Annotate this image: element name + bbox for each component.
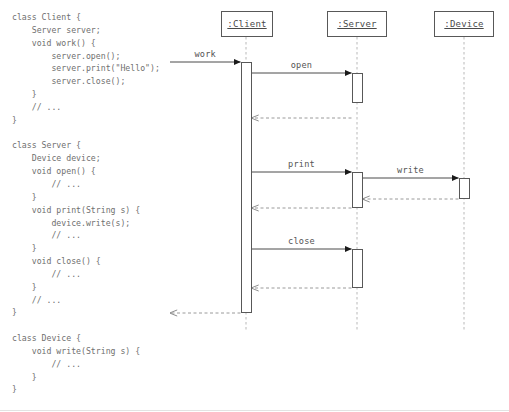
message-label: write — [397, 165, 424, 175]
diagram-svg — [0, 0, 509, 412]
message-label: close — [288, 236, 315, 246]
activation-bar[interactable] — [241, 62, 252, 313]
lifeline-head-device[interactable]: :Device — [434, 11, 494, 37]
lifeline-label: :Server — [337, 19, 376, 29]
lifeline-label: :Device — [444, 19, 483, 29]
activation-bar[interactable] — [352, 73, 363, 103]
activation-bar[interactable] — [352, 249, 363, 288]
bottom-border-rule — [0, 410, 509, 411]
message-label: work — [195, 49, 217, 59]
message-arrows-group — [170, 62, 459, 313]
diagram-canvas: class Client { Server server; void work(… — [0, 0, 509, 412]
message-label: open — [291, 60, 313, 70]
lifeline-head-client[interactable]: :Client — [221, 11, 273, 37]
message-label: print — [288, 159, 315, 169]
lifeline-head-server[interactable]: :Server — [327, 11, 387, 37]
uml-sequence-diagram: :Client:Server:Deviceworkopenprintwritec… — [0, 0, 509, 412]
activation-bar[interactable] — [352, 172, 363, 208]
activation-bar[interactable] — [459, 178, 470, 199]
lifeline-label: :Client — [227, 19, 266, 29]
